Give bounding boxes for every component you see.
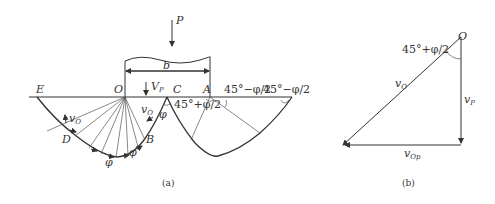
vector-vop-label: vOp: [404, 147, 421, 161]
caption-b: (b): [402, 178, 415, 188]
vector-vo-label: vO: [395, 77, 407, 91]
point-d-label: D: [61, 133, 71, 146]
angle-b-label: 45°+φ/2: [402, 43, 449, 56]
velocity-vo-right-label: vO: [141, 103, 153, 117]
figure-b: O 45°+φ/2 vO vP vOp (b): [343, 30, 475, 188]
figure-a: P b VP E O C A D B: [29, 14, 310, 188]
point-b-label: B: [145, 133, 154, 146]
point-c-label: C: [173, 83, 182, 96]
point-o-label-b: O: [458, 30, 467, 43]
phi-label: φ: [105, 156, 113, 169]
caption-a: (a): [162, 178, 174, 188]
angle-arc-a1: [225, 100, 227, 107]
vector-vp-label: vP: [464, 93, 475, 107]
angle-c-label: 45°+φ/2: [174, 98, 221, 111]
velocity-vo-left-label: vO: [69, 112, 81, 126]
width-b-label: b: [163, 59, 170, 72]
point-e-label: E: [35, 83, 44, 96]
point-a-label: A: [202, 83, 211, 96]
phi-label: φ: [159, 108, 167, 121]
load-p-label: P: [175, 14, 184, 27]
diagram-canvas: P b VP E O C A D B: [0, 0, 495, 204]
point-o-label: O: [114, 83, 123, 96]
angle-a2-label: 45°−φ/2: [263, 83, 310, 96]
phi-label: φ: [129, 146, 137, 159]
velocity-vp-label: VP: [151, 80, 164, 94]
